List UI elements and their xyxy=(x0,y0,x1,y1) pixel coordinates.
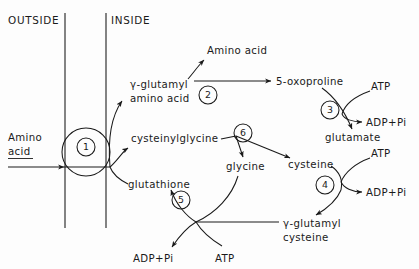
released-amino-acid-label: Amino acid xyxy=(207,45,267,56)
amino-acid-outside-line2: acid xyxy=(8,146,31,157)
adp-pi-step-5-label: ADP+Pi xyxy=(133,253,173,264)
gamma-glutamyl-amino-acid-line1: γ-glutamyl xyxy=(130,79,188,90)
glutamate-label: glutamate xyxy=(325,132,381,143)
amino-acid-outside-line1: Amino xyxy=(8,132,42,143)
gamma-glutamyl-cysteine-line2: cysteine xyxy=(283,232,329,243)
inside-label: INSIDE xyxy=(111,14,150,26)
outside-label: OUTSIDE xyxy=(8,14,59,26)
atp-step-3-label: ATP xyxy=(371,81,391,92)
glutathione-label: glutathione xyxy=(128,179,190,190)
cysteine-label: cysteine xyxy=(288,159,334,170)
step-3-number: 3 xyxy=(327,104,333,115)
atp-step-4-label: ATP xyxy=(371,148,391,159)
adp-pi-step-4-label: ADP+Pi xyxy=(366,187,406,198)
gamma-glutamyl-cycle-diagram: OUTSIDE INSIDE 1 Amino acid γ-glutamyl a… xyxy=(0,0,419,269)
oxoproline-label: 5-oxoproline xyxy=(276,76,343,87)
gamma-glutamyl-cysteine-line1: γ-glutamyl xyxy=(283,218,341,229)
step-5-number: 5 xyxy=(178,194,184,205)
step-6-number: 6 xyxy=(240,127,246,138)
step-4-number: 4 xyxy=(322,179,328,190)
gamma-glutamyl-amino-acid-line2: amino acid xyxy=(130,93,190,104)
step-2-number: 2 xyxy=(205,89,211,100)
cysteinylglycine-label: cysteinylglycine xyxy=(131,133,218,144)
step-1-number: 1 xyxy=(83,141,89,152)
atp-step-5-label: ATP xyxy=(215,253,235,264)
adp-pi-step-3-label: ADP+Pi xyxy=(366,117,406,128)
glycine-label: glycine xyxy=(226,161,265,172)
